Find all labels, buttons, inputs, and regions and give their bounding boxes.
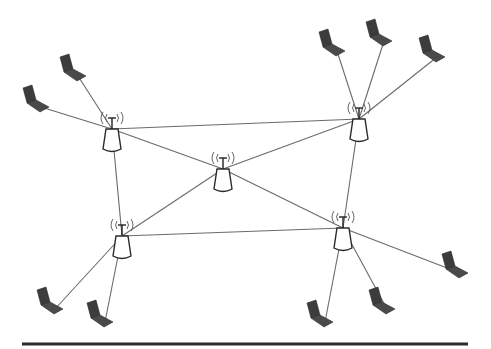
laptop-icon [419, 35, 445, 62]
laptop-icon [442, 251, 468, 278]
backbone-link [223, 119, 359, 169]
laptop-icon [60, 54, 86, 81]
laptops-layer [23, 19, 468, 327]
laptop-icon [366, 19, 392, 46]
client-link [78, 76, 112, 129]
laptop-icon [23, 85, 49, 112]
laptop-icon [307, 300, 333, 327]
client-link [343, 228, 460, 273]
client-link [55, 236, 122, 309]
backbone-link [112, 119, 359, 129]
laptop-icon [37, 287, 63, 314]
backbone-link [122, 169, 223, 236]
laptop-icon [319, 29, 345, 56]
network-diagram [0, 0, 491, 349]
access-point-icon [111, 219, 133, 259]
backbone-link [122, 228, 343, 236]
access-point-icon [212, 152, 234, 192]
backbone-link [223, 169, 343, 228]
backbone-link [112, 129, 223, 169]
diagram-canvas [0, 0, 491, 349]
links-layer [41, 41, 460, 322]
client-link [359, 57, 437, 119]
